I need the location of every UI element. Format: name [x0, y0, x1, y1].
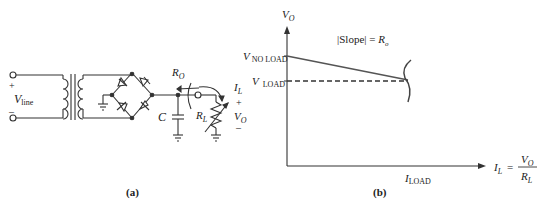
svg-text:=: = — [507, 161, 513, 173]
regulation-graph: VO VNO LOAD VLOAD |Slope| = Ro ILOAD IL … — [243, 8, 537, 199]
caption-b: (b) — [373, 186, 387, 199]
svg-text:RL: RL — [520, 170, 533, 185]
circuit-diagram — [10, 72, 228, 141]
output-minus-label: – — [235, 122, 242, 133]
axis-break-icon — [404, 60, 411, 102]
svg-text:VO: VO — [521, 153, 534, 168]
capacitor-label: C — [158, 110, 167, 124]
input-minus-label: – — [8, 106, 15, 117]
caption-a: (a) — [126, 186, 139, 199]
circuit-labels: + – Vline RO C RL IL + VO – (a) — [8, 66, 247, 199]
ground-icon — [98, 95, 112, 110]
i-load-label: ILOAD — [404, 172, 431, 186]
transformer-primary-coil-icon — [63, 75, 68, 119]
svg-text:IL: IL — [493, 161, 503, 176]
y-axis-label: VO — [282, 8, 295, 23]
input-plus-label: + — [9, 80, 15, 91]
rl-label: RL — [195, 109, 208, 124]
slope-annotation: |Slope| = Ro — [337, 33, 389, 48]
bridge-rectifier-icon — [110, 72, 154, 120]
x-axis-label: IL = VO RL — [493, 153, 537, 185]
v-load-label: VLOAD — [252, 75, 285, 89]
capacitor-icon — [172, 95, 184, 141]
input-terminal-top — [10, 72, 16, 78]
figure-canvas: + – Vline RO C RL IL + VO – (a) VO VNO L… — [0, 0, 542, 203]
il-label: IL — [233, 81, 243, 96]
output-plus-label: + — [236, 97, 242, 108]
v-no-load-label: VNO LOAD — [243, 50, 288, 64]
load-line — [287, 56, 408, 80]
ro-label: RO — [171, 66, 185, 81]
vline-label: Vline — [14, 92, 34, 107]
variable-resistor-icon — [205, 102, 228, 141]
